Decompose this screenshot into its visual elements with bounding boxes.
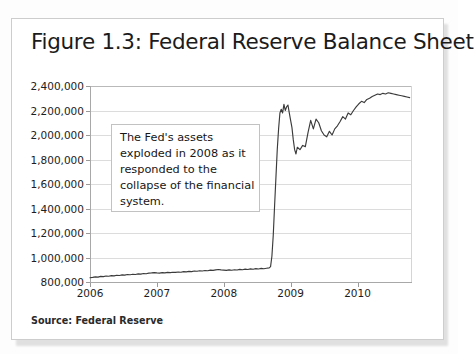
y-tick-label: 1,600,000 <box>10 178 84 190</box>
y-tick-label: 2,200,000 <box>10 105 84 117</box>
x-tick-label: 2008 <box>210 287 237 299</box>
annotation-callout-text: The Fed's assets exploded in 2008 as it … <box>120 130 259 210</box>
y-tick-label: 1,400,000 <box>10 203 84 215</box>
x-axis-line <box>90 282 412 283</box>
x-tick-label: 2007 <box>144 287 171 299</box>
y-tick-label: 1,800,000 <box>10 154 84 166</box>
source-note: Source: Federal Reserve <box>31 315 163 326</box>
y-tick-label: 2,000,000 <box>10 129 84 141</box>
annotation-callout-box: The Fed's assets exploded in 2008 as it … <box>111 124 260 212</box>
y-tick-label: 1,000,000 <box>10 252 84 264</box>
chart-plot-wrapper: 800,0001,000,0001,200,0001,400,0001,600,… <box>12 19 445 341</box>
y-tick-label: 800,000 <box>10 276 84 288</box>
x-tick-label: 2010 <box>344 287 371 299</box>
x-tick-label: 2006 <box>77 287 104 299</box>
x-tick-label: 2009 <box>277 287 304 299</box>
figure-card: Figure 1.3: Federal Reserve Balance Shee… <box>11 18 444 340</box>
plot-right-border <box>411 86 412 283</box>
y-tick-label: 2,400,000 <box>10 80 84 92</box>
y-tick-label: 1,200,000 <box>10 227 84 239</box>
